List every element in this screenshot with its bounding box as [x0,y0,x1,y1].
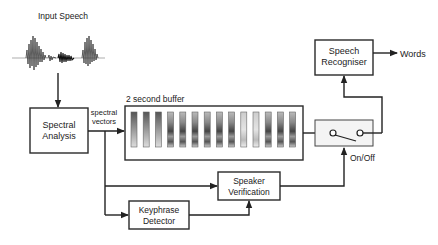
buffer-frame [290,112,296,147]
arrow-keyphrase-to-verification [189,201,249,215]
spectral-vectors-line1: spectral [91,108,118,117]
keyphrase-detector-line1: Keyphrase [139,205,180,215]
buffer-frame [216,112,222,147]
speech-recogniser-line2: Recogniser [321,57,367,67]
buffer-frame [277,112,283,147]
buffer-frame [241,112,247,147]
spectral-analysis-line2: Analysis [42,131,76,141]
speaker-verification-line2: Verification [228,187,270,197]
buffer-frame [229,112,235,147]
on-off-label: On/Off [350,153,376,163]
keyphrase-detector-block: Keyphrase Detector [129,201,189,229]
buffer-frame [253,112,259,147]
speech-recogniser-line1: Speech [329,46,360,56]
system-diagram: Input Speech Spectral Analysis spectral … [0,0,438,245]
on-off-switch [315,120,382,146]
keyphrase-detector-line2: Detector [143,216,175,226]
words-output-label: Words [400,49,426,59]
speech-recogniser-block: Speech Recogniser [315,40,373,75]
buffer-frame [204,112,210,147]
spectral-analysis-block: Spectral Analysis [30,108,88,153]
speaker-verification-block: Speaker Verification [218,172,280,200]
buffer-frame [131,112,137,147]
buffer-frame [168,112,174,147]
speaker-verification-line1: Speaker [233,176,265,186]
spectral-vectors-line2: vectors [92,117,116,126]
buffer-frame [180,112,186,147]
buffer-label: 2 second buffer [126,94,185,104]
waveform-icon [12,36,105,70]
input-speech-label: Input Speech [38,11,88,21]
buffer-frame [192,112,198,147]
spectral-analysis-line1: Spectral [42,120,75,130]
buffer-frame [155,112,161,147]
buffer-block [125,106,303,160]
buffer-frame [265,112,271,147]
buffer-frame [143,112,149,147]
